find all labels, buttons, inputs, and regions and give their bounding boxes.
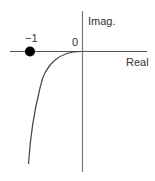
- imag-axis-label: Imag.: [88, 16, 116, 27]
- pole-label: −1: [25, 33, 38, 44]
- real-axis-label: Real: [126, 57, 149, 68]
- locus-branch: [29, 51, 83, 164]
- origin-label: 0: [72, 37, 78, 48]
- root-locus-diagram: [0, 0, 155, 181]
- pole-marker: [25, 47, 35, 57]
